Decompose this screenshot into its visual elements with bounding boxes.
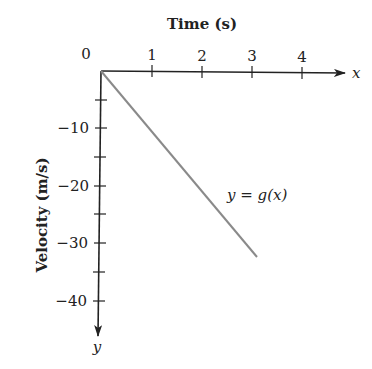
svg-text:3: 3: [247, 47, 257, 65]
line-annotation: y = g(x): [226, 186, 287, 204]
velocity-time-chart: Time (s) 0 x 1 2 3 4 y −10 −20 −30 −40 V…: [0, 0, 372, 369]
y-axis: [98, 71, 101, 336]
x-axis-var: x: [352, 64, 361, 82]
x-axis-title: Time (s): [167, 15, 237, 33]
svg-text:2: 2: [197, 47, 207, 65]
y-axis-title: Velocity (m/s): [33, 157, 51, 273]
svg-text:4: 4: [297, 48, 307, 66]
svg-text:1: 1: [147, 46, 157, 64]
svg-text:−40: −40: [55, 292, 87, 310]
series-line-g: [101, 71, 257, 257]
origin-label: 0: [81, 45, 91, 63]
svg-text:−30: −30: [56, 234, 88, 252]
x-ticks: 1 2 3 4: [147, 46, 307, 79]
svg-text:−10: −10: [57, 119, 89, 137]
y-axis-var: y: [92, 338, 102, 356]
x-axis: [101, 71, 345, 73]
svg-text:−20: −20: [57, 177, 89, 195]
chart-svg: Time (s) 0 x 1 2 3 4 y −10 −20 −30 −40 V…: [0, 0, 372, 369]
